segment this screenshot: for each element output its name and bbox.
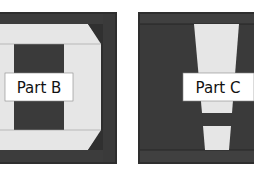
panel-c-bottom-border [140,150,254,162]
panel-b-top-border [0,14,115,24]
panel-b-bottom-bar [0,130,101,150]
panel-c-taper-dark-band [202,113,232,126]
panel-c-taper-lower [203,126,231,150]
panel-b-right-border [103,14,115,162]
quilt-parts-diagram: Part B Part C [0,0,254,172]
panel-b-top-bar [0,24,101,44]
panel-b-label: Part B [17,79,62,97]
panel-part-c: Part C [138,12,254,164]
panel-part-b: Part B [0,12,117,164]
panel-b-bottom-border [0,150,115,162]
panel-c-top-border [140,14,254,24]
panel-c-label: Part C [196,79,241,97]
